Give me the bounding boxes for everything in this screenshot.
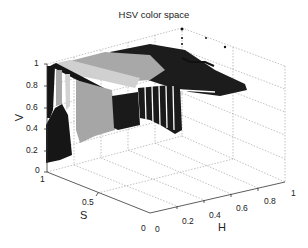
v-tick-0.6: 0.6 [26, 103, 38, 112]
h-tick-0.4: 0.4 [209, 211, 221, 220]
v-axis-label: V [14, 114, 25, 121]
h-axis-label: H [218, 222, 226, 233]
h-tick-0.8: 0.8 [264, 197, 276, 206]
v-tick-1: 1 [34, 59, 39, 68]
hsv-3d-scatter-figure: HSV color space [0, 0, 308, 248]
h-tick-1: 1 [291, 189, 296, 198]
s-axis-label: S [80, 210, 87, 221]
s-tick-1: 1 [40, 175, 45, 184]
v-tick-0.2: 0.2 [26, 146, 38, 155]
scatter-points [46, 28, 247, 164]
v-tick-0.8: 0.8 [26, 81, 38, 90]
h-tick-0: 0 [155, 225, 160, 234]
s-axis-line [47, 172, 150, 213]
h-tick-0.2: 0.2 [182, 217, 194, 226]
s-tick-0.5: 0.5 [82, 198, 94, 207]
s-tick-0: 0 [141, 224, 146, 233]
h-tick-0.6: 0.6 [236, 204, 248, 213]
v-tick-0.4: 0.4 [26, 124, 38, 133]
plot-area [0, 0, 308, 248]
